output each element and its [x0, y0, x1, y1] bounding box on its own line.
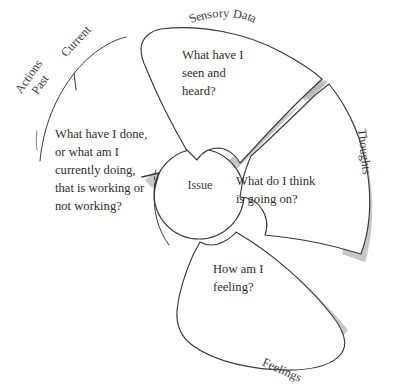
feelings-question: How am I feeling?: [213, 261, 321, 297]
sensory-data-question: What have I seen and heard?: [182, 47, 286, 101]
past-current-tick: [74, 73, 76, 90]
actions-question: What have I done, or what am I currently…: [55, 126, 177, 215]
feelings-petal: [177, 232, 345, 370]
thoughts-question: What do I think is going on?: [236, 173, 358, 209]
axis-label-sensory-data: Sensory Data: [190, 6, 255, 21]
reflection-model-diagram: Issue What have I seen and heard? What d…: [0, 0, 402, 390]
actions-outer-arc-tail: [36, 131, 37, 150]
